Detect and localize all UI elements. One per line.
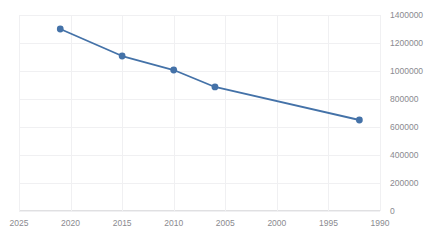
data-point-marker xyxy=(57,26,64,33)
series-line xyxy=(60,29,359,120)
gridline-vertical xyxy=(380,15,381,211)
data-point-marker xyxy=(356,117,363,124)
x-axis-tick-label: 2010 xyxy=(164,219,183,228)
x-axis-tick-label: 2015 xyxy=(113,219,132,228)
x-axis-tick-label: 1990 xyxy=(371,219,390,228)
data-point-marker xyxy=(119,53,126,60)
x-axis-tick-label: 2025 xyxy=(10,219,29,228)
y-axis-tick-label: 1200000 xyxy=(390,39,423,48)
data-point-marker xyxy=(212,84,219,91)
y-axis-tick-label: 200000 xyxy=(390,179,418,188)
chart-title xyxy=(0,0,442,1)
x-axis-tick-label: 2000 xyxy=(267,219,286,228)
y-axis-tick-label: 1400000 xyxy=(390,11,423,20)
x-axis-tick-label: 1995 xyxy=(319,219,338,228)
y-axis-tick-label: 0 xyxy=(390,207,395,216)
line-chart: 0200000400000600000800000100000012000001… xyxy=(0,0,442,243)
y-axis-tick-label: 600000 xyxy=(390,123,418,132)
y-axis-tick-label: 800000 xyxy=(390,95,418,104)
data-point-marker xyxy=(170,67,177,74)
gridline-horizontal xyxy=(19,211,380,212)
data-series xyxy=(19,15,380,211)
y-axis-tick-label: 1000000 xyxy=(390,67,423,76)
x-axis-tick-label: 2005 xyxy=(216,219,235,228)
y-axis-tick-label: 400000 xyxy=(390,151,418,160)
plot-area xyxy=(19,15,380,211)
x-axis-tick-label: 2020 xyxy=(61,219,80,228)
